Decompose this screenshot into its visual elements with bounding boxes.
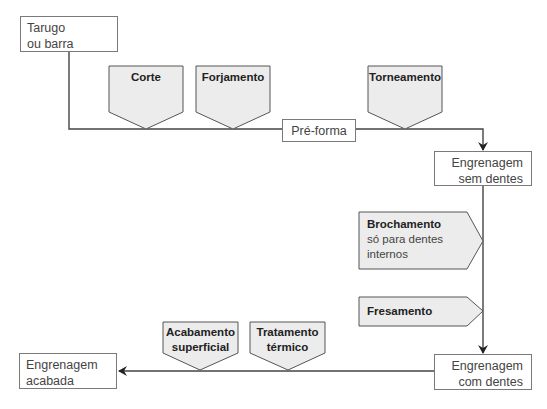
process-brochamento: Brochamento só para dentes internos: [367, 217, 467, 262]
process-tratamento-line1: Tratamento: [250, 325, 325, 340]
connector-preform-to-blank: [356, 129, 483, 150]
process-tratamento-line2: térmico: [250, 340, 325, 355]
node-preform: Pré-forma: [282, 119, 356, 142]
node-finished-gear: Engrenagem acabada: [19, 353, 117, 389]
node-finished-line2: acabada: [26, 373, 116, 389]
process-brochamento-note-2: internos: [367, 247, 467, 262]
node-blank-line1: Engrenagem: [435, 155, 523, 171]
process-fresamento: Fresamento: [367, 304, 467, 319]
node-tarugo-line1: Tarugo: [27, 20, 117, 36]
process-torneamento: Torneamento: [368, 70, 442, 85]
node-blank-line2: sem dentes: [435, 171, 523, 187]
node-toothed-line2: com dentes: [435, 374, 523, 390]
node-tarugo-line2: ou barra: [27, 36, 117, 52]
node-toothed-gear: Engrenagem com dentes: [434, 354, 532, 390]
process-corte-label: Corte: [131, 71, 161, 83]
node-blank-gear: Engrenagem sem dentes: [434, 151, 532, 186]
process-brochamento-note-1: só para dentes: [367, 232, 467, 247]
process-corte: Corte: [109, 70, 183, 85]
node-finished-line1: Engrenagem: [26, 357, 116, 373]
node-tarugo: Tarugo ou barra: [20, 16, 118, 52]
process-acabamento-line1: Acabamento: [163, 325, 238, 340]
process-forjamento: Forjamento: [196, 70, 270, 85]
process-tratamento: Tratamento térmico: [250, 325, 325, 355]
process-brochamento-label: Brochamento: [367, 218, 441, 230]
node-toothed-line1: Engrenagem: [435, 358, 523, 374]
process-fresamento-label: Fresamento: [367, 305, 432, 317]
process-acabamento-line2: superficial: [163, 340, 238, 355]
process-torneamento-label: Torneamento: [369, 71, 441, 83]
process-acabamento: Acabamento superficial: [163, 325, 238, 355]
node-preform-label: Pré-forma: [283, 123, 355, 139]
process-forjamento-label: Forjamento: [202, 71, 265, 83]
